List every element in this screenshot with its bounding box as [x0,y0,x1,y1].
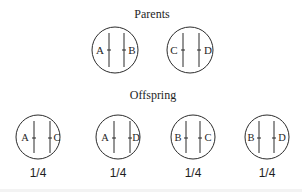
offspring-probability-4: 1/4 [259,166,276,180]
left-allele-label: A [21,132,29,143]
offspring-probability-3: 1/4 [185,166,202,180]
offspring-probability-1: 1/4 [30,166,47,180]
parent-cell-1: A B [92,27,138,73]
offspring-cell-4: B D [245,115,289,159]
left-allele-label: A [96,44,104,56]
left-allele-label: C [170,44,177,56]
offspring-title: Offspring [130,88,176,102]
right-allele-label: D [278,132,286,143]
offspring-cell-2: A D [96,115,140,159]
right-allele-label: B [128,44,135,56]
left-allele-label: B [174,132,181,143]
right-allele-label: D [204,44,212,56]
bottom-edge-strip [0,189,302,192]
genetics-cross-diagram: Parents A B C D Offspring A C [0,0,302,192]
right-allele-label: D [132,132,140,143]
left-allele-label: A [101,132,109,143]
right-allele-label: C [53,132,60,143]
offspring-cell-1: A C [16,115,61,159]
parent-cell-2: C D [167,27,213,73]
right-allele-label: C [204,132,211,143]
parents-title: Parents [134,7,170,21]
offspring-cell-3: B C [171,115,215,159]
offspring-probability-2: 1/4 [110,166,127,180]
left-allele-label: B [247,132,254,143]
